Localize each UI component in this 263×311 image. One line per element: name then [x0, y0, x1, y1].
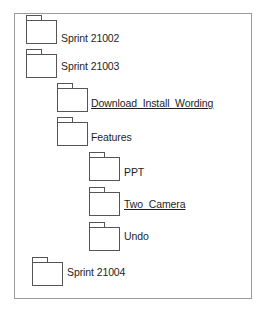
folder-label: PPT — [124, 166, 144, 178]
folder-label: Sprint 21004 — [67, 266, 125, 278]
folder-link[interactable]: Two_Camera — [124, 198, 185, 210]
folder-link[interactable]: Download_Install_Wording — [91, 97, 213, 109]
folder-label: Sprint 21003 — [61, 60, 119, 72]
folder-label: Sprint 21002 — [61, 32, 119, 44]
folder-label: Features — [91, 131, 132, 143]
folder-label: Undo — [124, 230, 149, 242]
